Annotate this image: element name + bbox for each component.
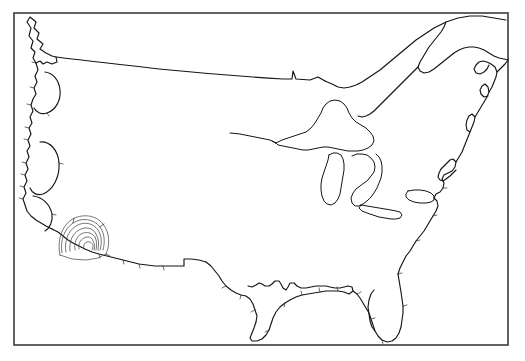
great-lakes xyxy=(230,100,434,219)
atlantic-coast xyxy=(398,114,475,274)
coastline-tick-marks xyxy=(19,62,447,344)
northern-border xyxy=(56,57,325,81)
gulf-coast xyxy=(248,281,353,341)
map-frame-border xyxy=(14,13,508,345)
map-canvas xyxy=(0,0,525,361)
lake-ontario xyxy=(406,190,434,203)
lake-huron xyxy=(351,154,382,206)
map-figure xyxy=(0,0,525,361)
lake-superior xyxy=(276,100,374,151)
lake-michigan xyxy=(321,153,344,205)
pacific-northwest-coast xyxy=(23,17,60,231)
saint-lawrence xyxy=(325,16,508,117)
lake-erie xyxy=(359,205,402,219)
rio-grande-border xyxy=(206,262,257,322)
florida-peninsula xyxy=(353,274,403,342)
southern-california-contours xyxy=(59,216,109,260)
new-england-coast xyxy=(474,60,508,117)
